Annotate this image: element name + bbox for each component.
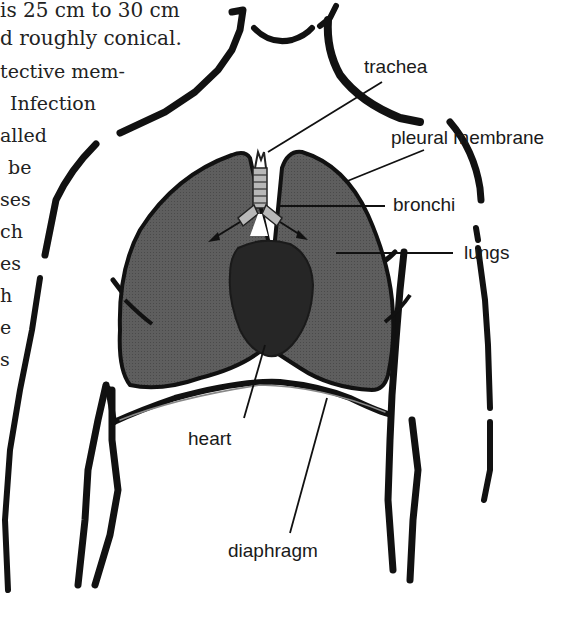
left-neck-line [120, 10, 243, 133]
left-shoulder [45, 144, 96, 255]
trachea-leader [268, 82, 382, 152]
right-outer-forearm [484, 422, 490, 500]
diaphragm-leader [290, 398, 327, 533]
label-lungs: lungs [464, 243, 509, 262]
chin-line [254, 28, 312, 41]
pleural-membrane-leader [345, 150, 424, 182]
diagram-page: is 25 cm to 30 cm d roughly conical. tec… [0, 0, 584, 635]
label-pleural-membrane: pleural membrane [391, 128, 544, 147]
label-heart: heart [188, 429, 231, 448]
right-upper-arm [476, 228, 478, 240]
label-diaphragm: diaphragm [228, 541, 318, 560]
trachea-top [255, 152, 266, 168]
label-trachea: trachea [364, 57, 427, 76]
right-outer-arm [478, 248, 490, 408]
right-torso-side-inner [410, 420, 418, 580]
left-outer-arm [5, 278, 40, 590]
trachea [253, 168, 267, 208]
label-bronchi: bronchi [393, 195, 455, 214]
